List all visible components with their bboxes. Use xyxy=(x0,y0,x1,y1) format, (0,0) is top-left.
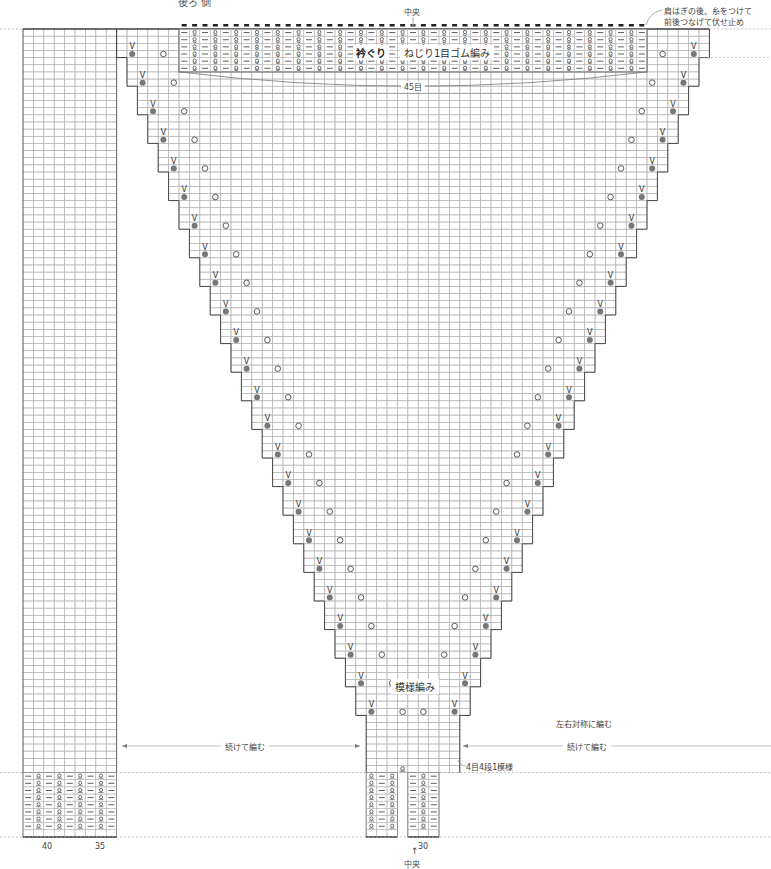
svg-text:V: V xyxy=(493,586,499,595)
svg-text:V: V xyxy=(545,443,551,452)
center-label-top: 中央 xyxy=(404,6,420,17)
svg-text:V: V xyxy=(577,357,583,366)
neckband-title: 衿ぐり xyxy=(353,45,389,60)
svg-text:V: V xyxy=(535,471,541,480)
svg-text:V: V xyxy=(348,643,354,652)
chart-title-cut: 後ろ 側 xyxy=(178,0,211,9)
svg-text:V: V xyxy=(649,157,655,166)
svg-text:V: V xyxy=(254,386,260,395)
svg-text:V: V xyxy=(140,71,146,80)
repeat-note: 4目4段1模様 xyxy=(466,761,513,772)
svg-text:V: V xyxy=(296,500,302,509)
center-arrow-bottom: ↑ xyxy=(411,846,419,856)
svg-text:V: V xyxy=(670,100,676,109)
svg-text:V: V xyxy=(473,643,479,652)
svg-text:V: V xyxy=(265,414,271,423)
svg-text:V: V xyxy=(639,185,645,194)
svg-text:V: V xyxy=(566,386,572,395)
knitting-chart: VVVVVVVVVVVVVVVVVVVVVVVVVVVVVVVVVVVVVVVV… xyxy=(0,0,771,869)
svg-text:V: V xyxy=(556,414,562,423)
svg-text:V: V xyxy=(171,157,177,166)
svg-text:V: V xyxy=(275,443,281,452)
column-number-40: 40 xyxy=(42,842,52,851)
svg-text:V: V xyxy=(514,529,520,538)
svg-text:V: V xyxy=(358,672,364,681)
svg-text:V: V xyxy=(192,214,198,223)
svg-text:V: V xyxy=(691,42,697,51)
continue-knitting-left: 続けて編む xyxy=(221,741,269,752)
svg-text:V: V xyxy=(213,271,219,280)
continue-knitting-right: 続けて編む xyxy=(563,741,611,752)
svg-text:V: V xyxy=(161,128,167,137)
svg-text:V: V xyxy=(483,614,489,623)
svg-text:V: V xyxy=(317,557,323,566)
svg-text:V: V xyxy=(150,100,156,109)
pattern-label: 模様編み xyxy=(391,679,439,694)
column-number-35: 35 xyxy=(95,842,105,851)
svg-text:V: V xyxy=(181,185,187,194)
svg-text:V: V xyxy=(660,128,666,137)
svg-text:V: V xyxy=(202,243,208,252)
svg-text:V: V xyxy=(337,614,343,623)
svg-text:V: V xyxy=(306,529,312,538)
shoulder-note-line1: 肩はぎの後、糸をつけて xyxy=(664,5,752,16)
svg-text:V: V xyxy=(369,700,375,709)
svg-text:V: V xyxy=(452,700,458,709)
svg-text:V: V xyxy=(587,328,593,337)
svg-text:V: V xyxy=(462,672,468,681)
svg-text:V: V xyxy=(608,271,614,280)
svg-text:V: V xyxy=(525,500,531,509)
svg-text:V: V xyxy=(681,71,687,80)
svg-text:V: V xyxy=(504,557,510,566)
svg-text:V: V xyxy=(233,328,239,337)
svg-text:V: V xyxy=(223,300,229,309)
neckband-technique: ねじり1目ゴム編み xyxy=(400,45,494,60)
shoulder-note-line2: 前後つなげて伏せ止め xyxy=(664,16,744,27)
svg-text:V: V xyxy=(285,471,291,480)
svg-text:V: V xyxy=(327,586,333,595)
symmetric-note: 左右対称に編む xyxy=(556,718,612,729)
svg-text:V: V xyxy=(597,300,603,309)
column-number-30: 30 xyxy=(418,842,428,851)
svg-text:V: V xyxy=(244,357,250,366)
svg-text:V: V xyxy=(129,42,135,51)
svg-text:V: V xyxy=(618,243,624,252)
svg-text:V: V xyxy=(629,214,635,223)
center-label-bottom: 中央 xyxy=(404,858,420,869)
neckband-stitch-count: 45目 xyxy=(401,81,425,92)
